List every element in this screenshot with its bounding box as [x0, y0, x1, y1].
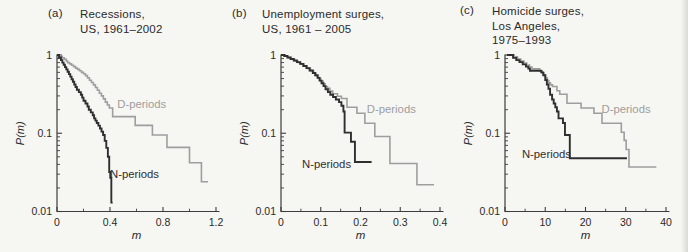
- series-label-n-periods: N-periods: [302, 158, 351, 170]
- x-tick-label: 0.4: [433, 216, 448, 228]
- x-tick-label: 0.4: [103, 216, 118, 228]
- x-tick-label: 30: [620, 216, 632, 228]
- y-tick-label: 0.1: [485, 127, 500, 139]
- x-tick-label: 40: [660, 216, 672, 228]
- series-label-n-periods: N-periods: [110, 168, 159, 180]
- y-axis-label: P(m): [462, 121, 474, 145]
- x-tick-label: 0.3: [393, 216, 408, 228]
- curve-n-periods: [57, 55, 113, 203]
- plot-b: 10.10.0100.10.20.30.4mP(m)D-periodsN-per…: [229, 0, 458, 252]
- y-tick-label: 0.01: [480, 205, 501, 217]
- x-tick-label: 0.8: [156, 216, 171, 228]
- y-axis-label: P(m): [14, 121, 26, 145]
- axes: [57, 55, 220, 212]
- curve-n-periods: [281, 55, 372, 162]
- panel-c: (c) Homicide surges,Los Angeles,1975–199…: [458, 0, 688, 252]
- series-label-d-periods: D-periods: [602, 103, 651, 115]
- series-label-d-periods: D-periods: [367, 103, 416, 115]
- x-axis-label: m: [356, 229, 366, 241]
- x-tick-label: 0: [278, 216, 284, 228]
- x-tick-label: 0.2: [353, 216, 368, 228]
- x-tick-label: 1.2: [209, 216, 224, 228]
- panel-a: (a) Recessions,US, 1961–2002 10.10.0100.…: [0, 0, 229, 252]
- y-tick-label: 0.1: [37, 127, 52, 139]
- panel-b: (b) Unemployment surges,US, 1961 – 2005 …: [229, 0, 458, 252]
- axes: [281, 55, 444, 212]
- x-tick-label: 0: [502, 216, 508, 228]
- x-axis-label: m: [132, 229, 142, 241]
- x-axis-label: m: [581, 229, 591, 241]
- axes: [505, 55, 670, 212]
- y-tick-label: 1: [46, 49, 52, 61]
- x-tick-label: 10: [539, 216, 551, 228]
- plot-a: 10.10.0100.40.81.2mP(m)D-periodsN-period…: [0, 0, 229, 252]
- y-tick-label: 0.1: [261, 127, 276, 139]
- plot-c: 10.10.01010203040mP(m)D-periodsN-periods: [458, 0, 688, 252]
- y-tick-label: 0.01: [256, 205, 277, 217]
- y-tick-label: 1: [494, 49, 500, 61]
- y-tick-label: 1: [270, 49, 276, 61]
- x-tick-label: 0: [54, 216, 60, 228]
- y-axis-label: P(m): [238, 121, 250, 145]
- series-label-d-periods: D-periods: [117, 98, 166, 110]
- series-label-n-periods: N-periods: [522, 148, 571, 160]
- x-tick-label: 20: [580, 216, 592, 228]
- curve-d-periods: [57, 55, 208, 182]
- x-tick-label: 0.1: [313, 216, 328, 228]
- y-tick-label: 0.01: [32, 205, 53, 217]
- figure-survival-distributions: (a) Recessions,US, 1961–2002 10.10.0100.…: [0, 0, 688, 252]
